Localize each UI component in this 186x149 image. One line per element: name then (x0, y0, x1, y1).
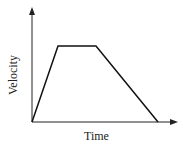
y-axis-arrow-icon (29, 7, 35, 15)
velocity-profile-line (32, 46, 158, 122)
y-axis-label: Velocity (6, 55, 21, 95)
plot-area (0, 0, 186, 149)
velocity-time-diagram: Time Velocity (0, 0, 186, 149)
x-axis-arrow-icon (170, 119, 178, 125)
x-axis-label: Time (84, 129, 109, 144)
